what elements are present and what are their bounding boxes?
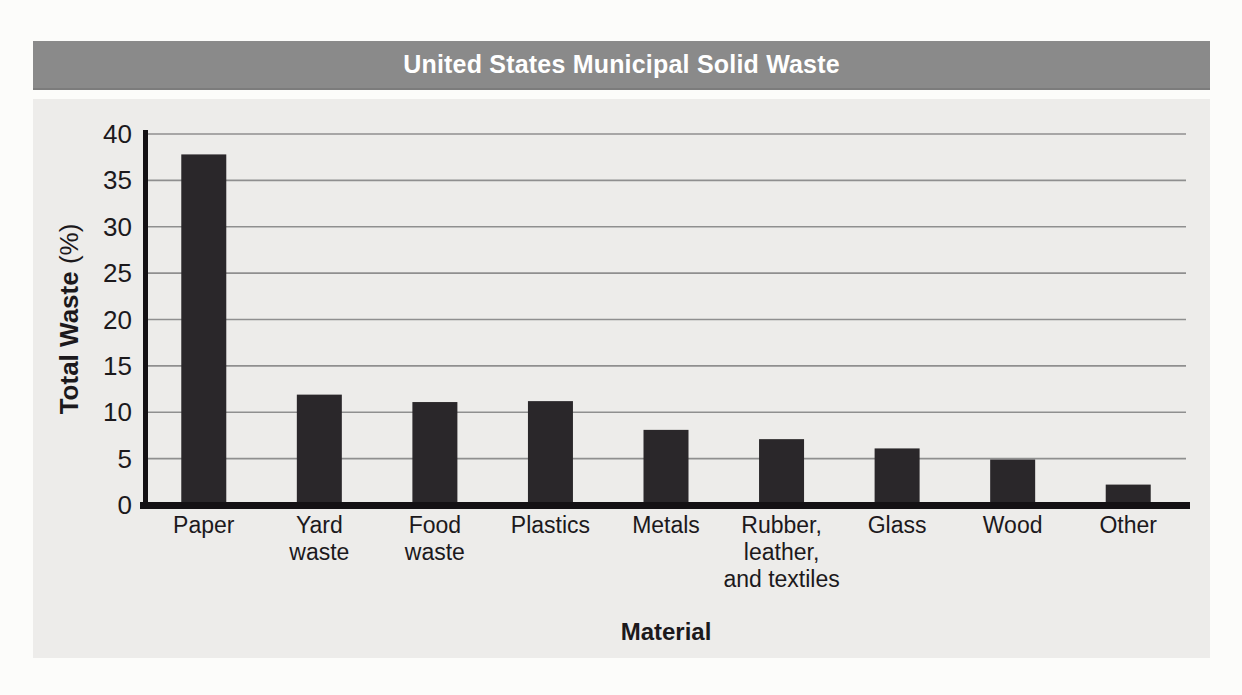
category-label: Other (1099, 512, 1157, 538)
bar-plastics (528, 401, 573, 505)
bar-yard (297, 395, 342, 505)
bar-chart: 0510152025303540PaperYardwasteFoodwasteP… (33, 99, 1210, 658)
y-tick-label: 35 (103, 165, 132, 195)
category-label: Yardwaste (288, 512, 349, 565)
chart-title-bar: United States Municipal Solid Waste (33, 41, 1210, 90)
y-axis-title: Total Waste (%) (54, 224, 84, 415)
chart-panel: 0510152025303540PaperYardwasteFoodwasteP… (33, 99, 1210, 658)
category-label: Wood (983, 512, 1043, 538)
category-label: Plastics (511, 512, 590, 538)
category-label: Glass (868, 512, 927, 538)
category-label: Metals (632, 512, 700, 538)
y-tick-label: 40 (103, 119, 132, 149)
chart-title: United States Municipal Solid Waste (403, 50, 840, 79)
category-label: Rubber,leather,and textiles (723, 512, 839, 592)
y-tick-label: 10 (103, 397, 132, 427)
bar-rubber (759, 439, 804, 505)
y-tick-label: 15 (103, 351, 132, 381)
bar-other (1106, 485, 1151, 505)
y-axis (143, 130, 148, 509)
bar-food (412, 402, 457, 505)
bar-wood (990, 460, 1035, 505)
bar-glass (875, 448, 920, 505)
category-label: Foodwaste (404, 512, 465, 565)
bar-paper (181, 154, 226, 505)
x-axis-title: Material (621, 618, 712, 645)
category-label: Paper (173, 512, 235, 538)
y-tick-label: 0 (118, 490, 132, 520)
y-tick-label: 25 (103, 258, 132, 288)
y-tick-label: 20 (103, 305, 132, 335)
x-axis (140, 502, 1190, 509)
bar-metals (644, 430, 689, 505)
y-tick-label: 30 (103, 212, 132, 242)
y-tick-label: 5 (118, 444, 132, 474)
